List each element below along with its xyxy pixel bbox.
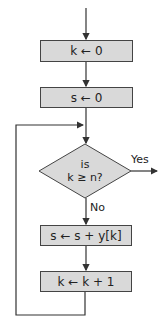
- process-label: s ← 0: [71, 91, 103, 105]
- process-init-k: k ← 0: [40, 40, 133, 62]
- decision-line-1: is: [55, 158, 115, 171]
- process-label: k ← k + 1: [58, 275, 115, 289]
- decision-line-2: k ≥ n?: [55, 171, 115, 184]
- yes-label: Yes: [131, 153, 149, 166]
- no-label: No: [90, 201, 105, 214]
- process-label: k ← 0: [70, 44, 102, 58]
- process-increment: k ← k + 1: [40, 271, 132, 292]
- process-init-s: s ← 0: [40, 87, 133, 108]
- process-label: s ← s + y[k]: [50, 229, 121, 243]
- process-accumulate: s ← s + y[k]: [40, 225, 132, 246]
- decision-text: is k ≥ n?: [55, 158, 115, 184]
